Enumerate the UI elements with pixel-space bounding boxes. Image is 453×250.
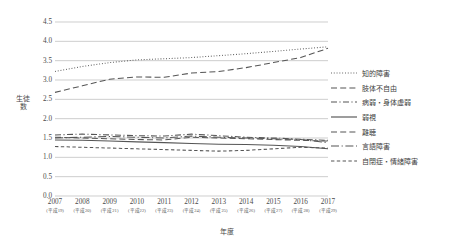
legend-line-swatch <box>331 68 357 78</box>
legend-item[interactable]: 言語障害 <box>331 139 451 154</box>
legend-label: 知的障害 <box>362 68 390 78</box>
legend-label: 弱視 <box>362 112 376 122</box>
series-line <box>55 48 328 92</box>
plot-area <box>55 22 328 196</box>
y-tick-label: 0.5 <box>30 173 52 181</box>
y-tick-label: 2.5 <box>30 95 52 103</box>
series-line <box>55 47 328 72</box>
legend-item[interactable]: 難聴 <box>331 124 451 139</box>
legend-line-swatch <box>331 156 357 166</box>
series-line <box>55 136 328 143</box>
y-tick-label: 4.5 <box>30 18 52 26</box>
chart-legend: 知的障害肢体不自由病弱・身体虚弱弱視難聴言語障害自閉症・情緒障害 <box>331 66 451 168</box>
legend-item[interactable]: 肢体不自由 <box>331 81 451 96</box>
y-tick-label: 2.0 <box>30 115 52 123</box>
y-tick-label: 1.5 <box>30 134 52 142</box>
legend-item[interactable]: 自閉症・情緒障害 <box>331 154 451 169</box>
y-tick-label: 3.5 <box>30 57 52 65</box>
legend-label: 言語障害 <box>362 141 390 151</box>
legend-line-swatch <box>331 141 357 151</box>
x-tick-year: 2017 <box>308 198 348 207</box>
legend-line-swatch <box>331 97 357 107</box>
legend-item[interactable]: 弱視 <box>331 110 451 125</box>
legend-label: 肢体不自由 <box>362 83 397 93</box>
x-tick-label: 2017(平成29) <box>308 198 348 214</box>
y-tick-label: 3.0 <box>30 76 52 84</box>
legend-label: 難聴 <box>362 127 376 137</box>
x-axis-label: 年度 <box>0 226 453 236</box>
legend-line-swatch <box>331 127 357 137</box>
plot-svg <box>55 22 328 196</box>
legend-label: 自閉症・情緒障害 <box>362 156 418 166</box>
y-tick-label: 4.0 <box>30 37 52 45</box>
legend-label: 病弱・身体虚弱 <box>362 97 411 107</box>
legend-item[interactable]: 病弱・身体虚弱 <box>331 95 451 110</box>
legend-item[interactable]: 知的障害 <box>331 66 451 81</box>
y-tick-label: 1.0 <box>30 153 52 161</box>
legend-line-swatch <box>331 112 357 122</box>
series-line <box>55 147 328 152</box>
legend-line-swatch <box>331 83 357 93</box>
x-tick-era: (平成29) <box>308 207 348 214</box>
line-chart: 生徒数 0.00.51.01.52.02.53.03.54.04.5 2007(… <box>0 0 453 250</box>
x-axis-tick-labels: 2007(平成19)2008(平成20)2009(平成21)2010(平成22)… <box>55 198 328 224</box>
